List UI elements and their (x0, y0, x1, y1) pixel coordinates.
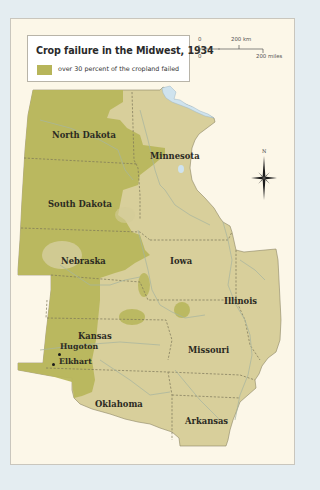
scale-km-zero: 0 (198, 36, 201, 42)
state-label-oklahoma: Oklahoma (95, 399, 143, 409)
scale-bar: 0 200 km 0 200 miles (196, 35, 286, 65)
light-pocket-sd (115, 207, 135, 223)
failed-patch-kansas (119, 309, 145, 325)
map-title: Crop failure in the Midwest, 1934 (36, 45, 214, 56)
failed-patch-iowa-west (138, 273, 150, 297)
map-legend: Crop failure in the Midwest, 1934 over 3… (27, 35, 190, 82)
state-label-iowa: Iowa (170, 256, 192, 266)
state-label-south-dakota: South Dakota (48, 199, 112, 209)
legend-label-failed: over 30 percent of the cropland failed (58, 65, 179, 73)
failed-patch-missouri (174, 302, 190, 318)
city-label-elkhart: Elkhart (59, 357, 92, 366)
scale-km-label: 200 km (231, 36, 251, 42)
state-label-kansas: Kansas (78, 331, 112, 341)
scale-mi-label: 200 miles (256, 53, 282, 59)
compass-rose-icon (251, 156, 277, 200)
compass-north-label: N (262, 148, 266, 154)
lake-minnesota (178, 165, 184, 173)
state-label-minnesota: Minnesota (150, 151, 200, 161)
state-label-missouri: Missouri (188, 345, 229, 355)
state-label-arkansas: Arkansas (185, 416, 228, 426)
state-label-north-dakota: North Dakota (52, 130, 116, 140)
legend-swatch-failed (37, 65, 52, 75)
city-marker-hugoton (58, 353, 61, 356)
scale-mi-zero: 0 (198, 53, 201, 59)
city-label-hugoton: Hugoton (60, 342, 98, 351)
state-label-nebraska: Nebraska (61, 256, 106, 266)
city-marker-elkhart (52, 363, 55, 366)
state-label-illinois: Illinois (224, 296, 257, 306)
